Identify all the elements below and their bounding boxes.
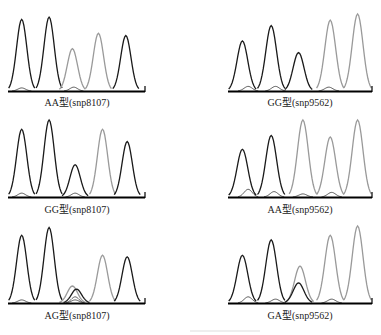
peak-dark: [229, 41, 256, 89]
peak-light: [59, 49, 85, 90]
peak-dark: [229, 149, 256, 195]
minor-trace: [264, 192, 284, 197]
peak-dark: [36, 228, 62, 300]
peak-dark: [258, 26, 285, 89]
peak-light: [317, 137, 344, 195]
faint-artifact-bar: [190, 330, 260, 332]
panel-gg-snp9562: [228, 14, 372, 92]
label-ga-snp9562: GA型(snp9562): [225, 307, 375, 322]
panel-aa-snp9562: [228, 120, 372, 198]
peak-dark: [9, 235, 35, 300]
minor-trace: [265, 299, 285, 303]
panel-ag-snp8107: [8, 228, 145, 304]
peak-dark: [114, 142, 140, 195]
minor-trace: [293, 194, 313, 197]
peak-dark: [9, 129, 35, 194]
peak-light: [344, 226, 371, 300]
peak-dark: [258, 240, 285, 301]
label-gg-snp8107: GG型(snp8107): [2, 201, 152, 216]
minor-trace: [265, 86, 285, 90]
peak-light: [317, 20, 344, 88]
peak-dark: [36, 17, 62, 88]
label-aa-snp9562: AA型(snp9562): [225, 201, 375, 216]
peak-dark: [62, 165, 88, 196]
peak-light: [289, 120, 316, 194]
chromatogram-figure: [0, 0, 381, 335]
label-ag-snp8107: AG型(snp8107): [2, 307, 152, 322]
minor-trace: [64, 87, 83, 91]
peak-light: [344, 120, 371, 194]
peak-dark: [114, 257, 140, 301]
panel-aa-snp8107: [8, 17, 145, 92]
minor-trace: [322, 192, 342, 196]
peak-dark: [9, 19, 35, 88]
minor-trace: [319, 87, 339, 91]
minor-trace: [322, 299, 342, 303]
peak-light: [85, 33, 111, 88]
panel-ga-snp9562: [228, 226, 372, 304]
peak-light: [344, 14, 371, 88]
peak-dark: [36, 120, 62, 194]
minor-trace: [12, 193, 31, 197]
peak-light: [90, 255, 116, 301]
minor-trace: [66, 193, 85, 197]
peak-dark: [113, 36, 139, 89]
panel-gg-snp8107: [8, 120, 145, 198]
peak-dark: [229, 255, 256, 301]
peak-dark: [285, 53, 312, 90]
peak-dark: [258, 135, 285, 194]
label-aa-snp8107: AA型(snp8107): [2, 94, 152, 109]
peak-light: [317, 235, 344, 300]
minor-trace: [12, 88, 31, 91]
minor-trace: [12, 300, 31, 303]
label-gg-snp9562: GG型(snp9562): [225, 94, 375, 109]
peak-light: [90, 129, 116, 194]
